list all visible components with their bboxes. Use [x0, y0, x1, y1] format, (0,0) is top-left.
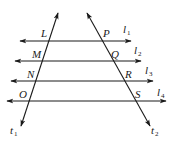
point-label-s: S: [135, 88, 141, 100]
point-label-o: O: [19, 88, 27, 100]
point-label-r: R: [124, 68, 132, 80]
point-label-n: N: [26, 68, 35, 80]
transversal-t2: [87, 13, 150, 126]
label-l4: l4: [157, 86, 165, 100]
parallel-lines-transversals-diagram: l1l2l3l4t1t2LMNOPQRS: [0, 0, 173, 144]
point-label-l: L: [40, 27, 47, 39]
point-label-m: M: [31, 48, 42, 60]
label-t2: t2: [151, 124, 159, 138]
point-label-p: P: [102, 27, 110, 39]
label-l1: l1: [123, 23, 131, 37]
label-l3: l3: [145, 64, 153, 78]
diagram-canvas: l1l2l3l4t1t2LMNOPQRS: [0, 0, 173, 144]
point-label-q: Q: [111, 48, 119, 60]
label-l2: l2: [134, 44, 142, 58]
label-t1: t1: [10, 124, 18, 138]
